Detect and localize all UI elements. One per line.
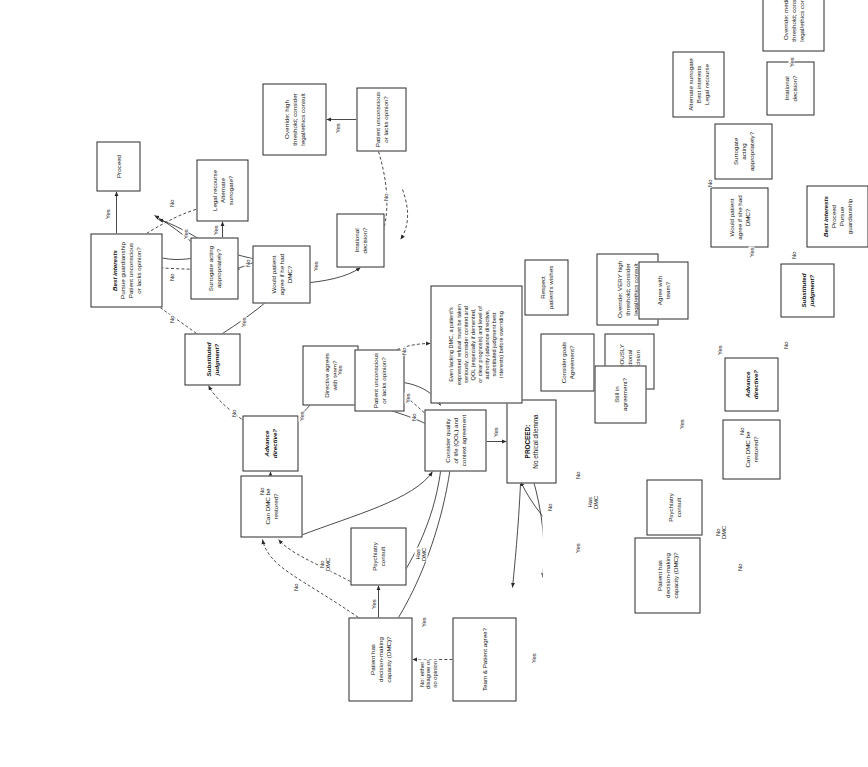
- node-advance-directive-upper[interactable]: Advance directive?: [242, 415, 298, 471]
- node-can-dmc-be-restored-upper-label: Can DMC be restored?: [263, 488, 279, 524]
- node-even-lacking-dmc-label: Even lacking DMC, a patient's expressed …: [447, 304, 504, 385]
- edge-label-yes-legal-up: Yes: [182, 228, 188, 239]
- edge-label-no-dmc-b: No DMC: [714, 525, 727, 539]
- edge-label-yes-dmc-upper-qol: Yes: [420, 616, 426, 627]
- node-override-very-high-label: Override: VERY high threshold; consider …: [615, 260, 639, 317]
- node-irrational-decision-upper-label: Irrational decision?: [352, 227, 368, 253]
- node-override-high-threshold[interactable]: Override: high threshold; consider legal…: [262, 83, 326, 155]
- node-even-lacking-dmc[interactable]: Even lacking DMC, a patient's expressed …: [430, 285, 522, 403]
- node-best-interests-upper[interactable]: Best interests Pursue guardianship Patie…: [90, 233, 162, 307]
- node-surrogate-acting-appropriately-upper[interactable]: Surrogate acting appropriately?: [190, 237, 238, 299]
- node-respect-patients-wishes[interactable]: Respect patient's wishes: [524, 259, 568, 315]
- node-patient-has-dmc-upper[interactable]: Patient has decision-making capacity (DM…: [348, 617, 412, 701]
- node-patient-has-dmc-lower-label: Patient has decision-making capacity (DM…: [655, 552, 679, 598]
- node-irrational-decision-upper[interactable]: Irrational decision?: [336, 213, 384, 267]
- edge-label-no-upper-restore: No: [292, 582, 298, 591]
- node-advance-directive-upper-label: Advance directive?: [262, 428, 278, 457]
- node-patient-has-dmc-lower[interactable]: Patient has decision-making capacity (DM…: [634, 537, 700, 613]
- node-patient-unconscious-upper[interactable]: Patient unconscious or lacks opinion?: [356, 87, 406, 151]
- node-best-interests-upper-head: Best interests: [110, 250, 118, 291]
- edge-label-no-advdir: No: [230, 408, 236, 417]
- node-patient-unconscious-mid[interactable]: Patient unconscious or lacks opinion?: [354, 349, 404, 411]
- node-substituted-judgment-lower[interactable]: Substituted judgment?: [780, 263, 834, 317]
- edge-label-yes-substj: Yes: [240, 316, 246, 327]
- edge-label-no-patunc-upper: No: [382, 192, 388, 201]
- node-legal-recourse-label: Legal recourse Alternate surrogate?: [210, 162, 234, 218]
- node-team-patient-agree[interactable]: Team & Patient agree?: [452, 617, 516, 701]
- edge-proceed-in-a: [512, 483, 520, 587]
- edge-label-no-qol-in: No: [410, 412, 416, 421]
- node-would-patient-agree-he[interactable]: Would patient agree if he had DMC?: [252, 245, 310, 303]
- node-consider-goals-agreement[interactable]: Consider goals Agreement?: [540, 333, 594, 391]
- edge-label-yes-advdir-lower: Yes: [716, 344, 722, 355]
- node-proceed-no-ethical-dilemma[interactable]: PROCEED: No ethical dilemma: [506, 399, 556, 483]
- node-legal-recourse-alternate-surrogate[interactable]: Legal recourse Alternate surrogate?: [196, 159, 248, 221]
- edge-restored-to-qol2: [300, 471, 432, 535]
- edge-label-yes-patunc-mid: Yes: [404, 392, 410, 403]
- node-surrogate-acting-appropriately-lower[interactable]: Surrogate acting appropriately?: [714, 123, 772, 179]
- edge-label-yes-irr-lower: Yes: [788, 56, 794, 67]
- node-can-dmc-be-restored-lower[interactable]: Can DMC be restored?: [722, 419, 780, 479]
- node-alternate-surrogate-best-interests[interactable]: Alternate surrogate Best interests Legal…: [672, 51, 724, 117]
- node-psychiatry-consult-lower[interactable]: Psychiatry consult: [646, 479, 702, 535]
- edge-label-yes-team-lower: Yes: [530, 652, 536, 663]
- node-surrogate-acting-upper-label: Surrogate acting appropriately?: [206, 245, 222, 290]
- edge-label-has-dmc-a: Has DMC: [414, 547, 427, 561]
- node-irrational-decision-lower[interactable]: Irrational decision?: [766, 61, 814, 115]
- edge-label-no-advdir-lower: No: [782, 340, 788, 349]
- edge-label-yes-advdir: Yes: [298, 410, 304, 421]
- node-still-in-agreement-label: Still in agreement?: [612, 377, 628, 410]
- edge-label-yes-substj-lower: Yes: [748, 246, 754, 257]
- node-psychiatry-consult-upper[interactable]: Psychiatry consult: [350, 527, 406, 585]
- edge-label-no-substj-lower: No: [790, 250, 796, 259]
- node-directive-agrees-with-team[interactable]: Directive agrees with team?: [302, 345, 358, 405]
- node-still-in-agreement[interactable]: Still in agreement?: [594, 365, 646, 423]
- node-team-patient-agree-label: Team & Patient agree?: [480, 628, 488, 691]
- node-consider-goals-label: Consider goals Agreement?: [559, 341, 575, 382]
- node-consider-qol-label: Consider quality of life (QOL) and conte…: [443, 414, 467, 465]
- node-best-interests-lower[interactable]: Best interests Proceed Pursue guardiansh…: [806, 185, 868, 247]
- node-substituted-judgment-upper-label: Substituted judgment?: [204, 342, 220, 376]
- node-proceed-terminal[interactable]: Proceed: [96, 141, 140, 191]
- node-advance-directive-lower-label: Advance directive?: [743, 369, 759, 398]
- edge-label-no-restored-advdir: No: [258, 486, 264, 495]
- node-irrational-decision-lower-label: Irrational decision?: [782, 75, 798, 101]
- edge-label-has-dmc-b: Has DMC: [586, 495, 599, 509]
- node-respect-wishes-label: Respect patient's wishes: [538, 265, 554, 309]
- node-would-patient-agree-she-label: Would patient agree if she had DMC?: [727, 195, 751, 239]
- edge-label-no-dmc-a: No DMC: [318, 557, 331, 571]
- edge-label-no-proceed-in-a: No: [546, 502, 552, 511]
- node-proceed-body: No ethical dilemma: [531, 414, 539, 468]
- node-agree-with-team[interactable]: Agree with team?: [638, 261, 688, 319]
- node-substituted-judgment-lower-label: Substituted judgment?: [799, 273, 815, 307]
- node-advance-directive-lower[interactable]: Advance directive?: [724, 357, 778, 411]
- node-proceed-head: PROCEED:: [523, 424, 531, 458]
- node-best-interests-lower-body: Proceed Pursue guardianship: [829, 198, 853, 233]
- node-consider-qol[interactable]: Consider quality of life (QOL) and conte…: [424, 409, 486, 471]
- edge-label-no-would-agree-he: No: [244, 258, 250, 267]
- node-alternate-surrogate-label: Alternate surrogate Best interests Legal…: [686, 58, 710, 111]
- edge-label-yes-bestint-proceed: Yes: [104, 208, 110, 219]
- node-override-medium-threshold[interactable]: Override: medium threshold; consider leg…: [762, 0, 824, 51]
- node-substituted-judgment-upper[interactable]: Substituted judgment?: [184, 333, 240, 385]
- edge-label-no-either-disagree: No: either disagree or no opinion: [418, 659, 437, 689]
- edge-psych-nodmc-to-restored: [278, 539, 350, 581]
- edge-dmc-lower-yes-to-proceed: [520, 481, 542, 581]
- edge-label-no-proceed-in-b: No: [574, 470, 580, 479]
- node-best-interests-lower-head: Best interests: [821, 196, 829, 237]
- edge-label-yes-dmc-upper-psych: Yes: [370, 598, 376, 609]
- edge-label-yes-qol-proceed: Yes: [492, 426, 498, 437]
- edge-label-no-restored-advdir-lower: No: [738, 426, 744, 435]
- edge-label-no-substj: No: [168, 314, 174, 323]
- node-would-patient-agree-he-label: Would patient agree if he had DMC?: [269, 253, 293, 294]
- node-patient-has-dmc-upper-label: Patient has decision-making capacity (DM…: [368, 636, 392, 682]
- node-best-interests-upper-body: Pursue guardianship Patient unconscious …: [118, 242, 142, 299]
- node-would-patient-agree-she[interactable]: Would patient agree if she had DMC?: [710, 187, 768, 247]
- edge-label-yes-irr-upper: Yes: [312, 260, 318, 271]
- edge-label-yes-restored-still: Yes: [678, 418, 684, 429]
- edge-irr-lower-dash: [400, 189, 407, 239]
- node-can-dmc-be-restored-upper[interactable]: Can DMC be restored?: [240, 475, 302, 537]
- node-proceed-terminal-label: Proceed: [114, 154, 122, 177]
- edge-label-no-patunc-mid: No: [400, 346, 406, 355]
